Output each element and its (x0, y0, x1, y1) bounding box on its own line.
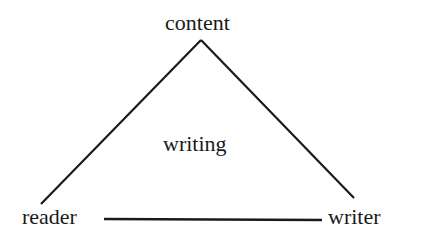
edge-content-writer (201, 40, 354, 198)
node-writing: writing (163, 133, 227, 155)
edge-content-reader (41, 40, 201, 204)
edge-reader-writer (104, 219, 322, 220)
node-content: content (165, 12, 230, 34)
node-reader: reader (22, 206, 77, 228)
node-writer: writer (328, 206, 381, 228)
